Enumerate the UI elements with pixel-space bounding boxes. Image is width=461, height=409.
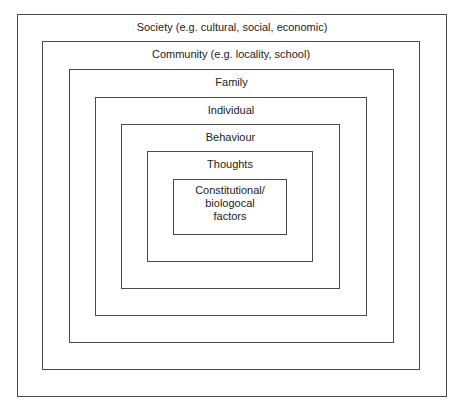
layer-thoughts-label: Thoughts [148, 158, 312, 171]
layer-constitutional-biological-label: Constitutional/ biologocal factors [174, 184, 286, 223]
layer-family-label: Family [70, 76, 393, 89]
layer-individual-label: Individual [96, 104, 366, 117]
layer-community-label: Community (e.g. locality, school) [43, 48, 419, 61]
core-label-line-1: Constitutional/ [174, 184, 286, 197]
layer-society-label: Society (e.g. cultural, social, economic… [18, 21, 446, 34]
core-label-line-2: biologocal [174, 197, 286, 210]
core-label-line-3: factors [174, 210, 286, 223]
layer-constitutional-biological: Constitutional/ biologocal factors [173, 179, 287, 235]
layer-behaviour-label: Behaviour [122, 131, 339, 144]
